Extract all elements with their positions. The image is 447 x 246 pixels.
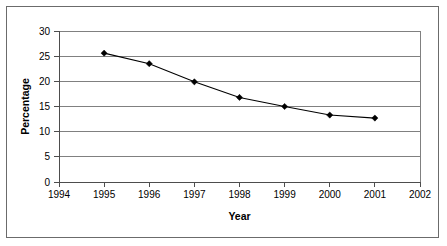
x-tick-label: 1999 bbox=[273, 189, 296, 200]
gridlines bbox=[59, 31, 420, 157]
data-point-1999 bbox=[282, 103, 288, 109]
data-point-2000 bbox=[327, 112, 333, 118]
x-tick-label: 1998 bbox=[228, 189, 251, 200]
series-markers bbox=[101, 50, 378, 121]
x-tick-label: 1995 bbox=[93, 189, 116, 200]
y-axis-title: Percentage bbox=[19, 78, 31, 135]
data-point-1997 bbox=[191, 79, 197, 85]
x-tick-label: 2002 bbox=[409, 189, 432, 200]
y-tick-label: 15 bbox=[39, 101, 51, 112]
x-tick-label: 1996 bbox=[138, 189, 161, 200]
y-tick-marks bbox=[54, 31, 59, 182]
line-chart: 30 25 20 15 10 5 0 bbox=[7, 7, 440, 239]
y-tick-label: 30 bbox=[39, 26, 51, 37]
data-point-1996 bbox=[146, 61, 152, 67]
x-axis-title: Year bbox=[228, 210, 250, 222]
chart-outer-frame: 30 25 20 15 10 5 0 bbox=[6, 6, 439, 238]
y-tick-label: 10 bbox=[39, 126, 51, 137]
x-tick-label: 2000 bbox=[319, 189, 342, 200]
series-line bbox=[104, 53, 375, 118]
y-tick-label: 20 bbox=[39, 76, 51, 87]
x-tick-marks bbox=[59, 182, 420, 187]
y-tick-label: 0 bbox=[44, 177, 50, 188]
x-tick-label: 1994 bbox=[48, 189, 71, 200]
x-tick-label: 2001 bbox=[364, 189, 387, 200]
y-tick-label: 5 bbox=[44, 151, 50, 162]
y-tick-labels: 30 25 20 15 10 5 0 bbox=[39, 26, 51, 188]
x-tick-label: 1997 bbox=[183, 189, 206, 200]
chart-plot-wrapper: 30 25 20 15 10 5 0 bbox=[7, 7, 440, 239]
data-point-1995 bbox=[101, 50, 107, 56]
x-tick-labels: 1994 1995 1996 1997 1998 1999 2000 2001 … bbox=[48, 189, 432, 200]
data-point-2001 bbox=[372, 115, 378, 121]
y-tick-label: 25 bbox=[39, 51, 51, 62]
data-point-1998 bbox=[236, 94, 242, 100]
